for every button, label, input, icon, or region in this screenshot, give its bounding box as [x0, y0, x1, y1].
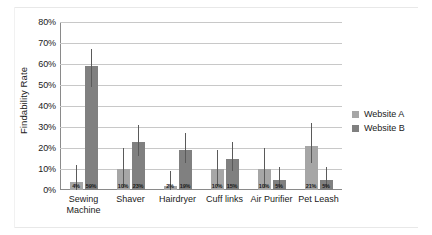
bar-value-label: 10%: [211, 183, 224, 189]
y-axis-tick-label: 10%: [38, 164, 56, 174]
plot-area: 4%59%10%23%2%19%10%15%10%5%21%5%: [60, 22, 342, 190]
y-axis-tick-label: 50%: [38, 80, 56, 90]
y-axis-tick-label: 30%: [38, 122, 56, 132]
bar-value-label: 2%: [164, 183, 177, 189]
bar-value-label: 10%: [258, 183, 271, 189]
bar-group: 10%5%: [248, 22, 295, 190]
scan-artifact-line-top: [14, 7, 418, 8]
y-axis-tick-label: 70%: [38, 38, 56, 48]
error-bar: [217, 150, 218, 186]
bar-group: 4%59%: [60, 22, 107, 190]
bar-value-label: 59%: [85, 183, 98, 189]
error-bar: [138, 125, 139, 157]
x-axis-category-labels: Sewing MachineShaverHairdryerCuff linksA…: [60, 194, 342, 228]
legend-item-label: Website B: [364, 123, 405, 133]
bar-value-label: 5%: [320, 183, 333, 189]
x-axis-category-label: Sewing Machine: [60, 194, 107, 215]
bar-group: 2%19%: [154, 22, 201, 190]
legend-swatch-icon: [352, 125, 359, 132]
y-axis-tick-label: 80%: [38, 17, 56, 27]
findability-rate-bar-chart: Findability Rate 0%10%20%30%40%50%60%70%…: [0, 0, 432, 235]
bar-value-label: 19%: [179, 183, 192, 189]
legend-item[interactable]: Website A: [352, 107, 405, 121]
legend-swatch-icon: [352, 111, 359, 118]
error-bar: [91, 49, 92, 87]
x-axis-category-label: Pet Leash: [295, 194, 342, 205]
x-axis-category-label: Air Purifier: [248, 194, 295, 205]
legend-item-label: Website A: [364, 109, 404, 119]
y-axis-tick-label: 0%: [43, 185, 56, 195]
bar-value-label: 4%: [70, 183, 83, 189]
error-bar: [185, 133, 186, 162]
bar-group: 10%23%: [107, 22, 154, 190]
y-axis-tick-label: 20%: [38, 143, 56, 153]
x-axis-category-label: Hairdryer: [154, 194, 201, 205]
chart-legend: Website AWebsite B: [352, 107, 405, 135]
scan-artifact-edge-left: [14, 7, 15, 228]
y-axis-tick-label: 40%: [38, 101, 56, 111]
error-bar: [123, 148, 124, 188]
error-bar: [232, 142, 233, 171]
x-axis-category-label: Cuff links: [201, 194, 248, 205]
legend-item[interactable]: Website B: [352, 121, 405, 135]
bar-group: 10%15%: [201, 22, 248, 190]
y-axis-tick-label: 60%: [38, 59, 56, 69]
bar-group: 21%5%: [295, 22, 342, 190]
bar-value-label: 21%: [305, 183, 318, 189]
bar-value-label: 5%: [273, 183, 286, 189]
error-bar: [311, 123, 312, 163]
y-axis-tick-labels: 0%10%20%30%40%50%60%70%80%: [26, 22, 56, 190]
bar-value-label: 10%: [117, 183, 130, 189]
error-bar: [264, 148, 265, 188]
bar-value-label: 23%: [132, 183, 145, 189]
bar-value-label: 15%: [226, 183, 239, 189]
x-axis-category-label: Shaver: [107, 194, 154, 205]
